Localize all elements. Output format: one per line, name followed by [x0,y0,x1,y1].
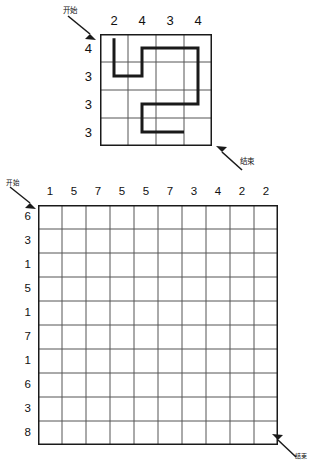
row-clue: 3 [18,235,31,247]
column-clue: 2 [104,14,124,27]
column-clue: 1 [40,186,60,198]
bottom-puzzle-panel: 开始 结束 1575573422 6315171638 [0,172,313,469]
row-clue: 1 [18,355,31,367]
column-clue: 4 [208,186,228,198]
column-clue: 5 [136,186,156,198]
column-clue: 5 [64,186,84,198]
column-clue: 7 [160,186,180,198]
column-clue: 3 [160,14,180,27]
column-clue: 3 [184,186,204,198]
column-clue: 5 [112,186,132,198]
row-clue: 4 [78,42,92,55]
row-clue: 6 [18,379,31,391]
row-clue: 3 [78,126,92,139]
top-grid-canvas [100,34,212,146]
row-clue: 7 [18,331,31,343]
row-clue: 8 [18,427,31,439]
column-clue: 4 [132,14,152,27]
column-clue: 4 [188,14,208,27]
puzzle-page: 开始 结束 2434 4333 开始 结束 1575573422 631517 [0,0,313,469]
top-puzzle-panel: 开始 结束 2434 4333 [0,0,313,172]
row-clue: 3 [18,403,31,415]
row-clue: 5 [18,283,31,295]
column-clue: 2 [256,186,276,198]
column-clue: 7 [88,186,108,198]
row-clue: 3 [78,98,92,111]
row-clue: 6 [18,211,31,223]
row-clue: 1 [18,307,31,319]
row-clue: 3 [78,70,92,83]
bottom-grid[interactable] [38,205,278,445]
top-grid[interactable] [100,34,212,146]
row-clue: 1 [18,259,31,271]
bottom-grid-canvas [38,205,278,445]
column-clue: 2 [232,186,252,198]
